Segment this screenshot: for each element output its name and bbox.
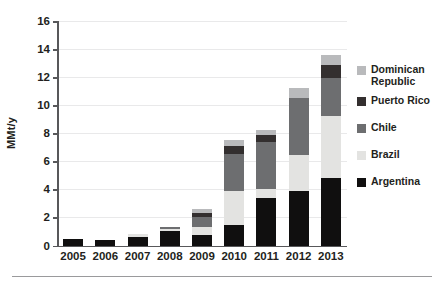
bar-segment[interactable] bbox=[224, 225, 244, 245]
legend-label: Brazil bbox=[371, 149, 400, 161]
bar-stack[interactable] bbox=[128, 234, 148, 246]
y-axis-title: MMt/y bbox=[0, 124, 46, 142]
bar-segment[interactable] bbox=[224, 191, 244, 225]
bar-stack[interactable] bbox=[160, 227, 180, 245]
y-tick-label: 4 bbox=[44, 183, 50, 195]
legend-item[interactable]: Dominican Republic bbox=[357, 64, 425, 87]
bar-stack[interactable] bbox=[289, 88, 309, 245]
bar-segment[interactable] bbox=[289, 191, 309, 245]
x-tick-label: 2010 bbox=[217, 250, 251, 262]
legend-label: Dominican Republic bbox=[371, 64, 425, 87]
x-tick-label: 2005 bbox=[56, 250, 90, 262]
bar-segment[interactable] bbox=[256, 142, 276, 190]
gridline bbox=[57, 77, 347, 78]
bar-segment[interactable] bbox=[95, 240, 115, 246]
bar-stack[interactable] bbox=[224, 140, 244, 245]
bar-segment[interactable] bbox=[63, 239, 83, 245]
x-tick-label: 2008 bbox=[153, 250, 187, 262]
bar-stack[interactable] bbox=[256, 130, 276, 246]
x-tick-label: 2006 bbox=[88, 250, 122, 262]
bar-segment[interactable] bbox=[321, 65, 341, 78]
y-tick-label: 12 bbox=[37, 71, 50, 83]
bar-segment[interactable] bbox=[224, 146, 244, 154]
legend-swatch-icon bbox=[357, 178, 366, 187]
bar-segment[interactable] bbox=[289, 155, 309, 191]
x-tick-label: 2013 bbox=[314, 250, 348, 262]
bar-segment[interactable] bbox=[128, 237, 148, 245]
x-tick-label: 2007 bbox=[121, 250, 155, 262]
legend-item[interactable]: Argentina bbox=[357, 176, 420, 188]
legend-label: Chile bbox=[371, 122, 397, 134]
bar-stack[interactable] bbox=[95, 240, 115, 246]
y-tick-label: 16 bbox=[37, 15, 50, 27]
legend-swatch-icon bbox=[357, 124, 366, 133]
legend-item[interactable]: Chile bbox=[357, 122, 397, 134]
bar-stack[interactable] bbox=[192, 209, 212, 245]
bar-segment[interactable] bbox=[289, 98, 309, 156]
gridline bbox=[57, 49, 347, 50]
bar-segment[interactable] bbox=[321, 178, 341, 245]
gridline bbox=[57, 21, 347, 22]
y-tick-label: 14 bbox=[37, 43, 50, 55]
y-tick-label: 6 bbox=[44, 155, 50, 167]
bar-segment[interactable] bbox=[256, 189, 276, 197]
legend-swatch-icon bbox=[357, 66, 366, 75]
legend-label: Argentina bbox=[371, 176, 420, 188]
y-tick-label: 10 bbox=[37, 99, 50, 111]
legend-item[interactable]: Brazil bbox=[357, 149, 400, 161]
bar-segment[interactable] bbox=[192, 235, 212, 246]
bar-segment[interactable] bbox=[192, 217, 212, 228]
y-tick-label: 8 bbox=[44, 127, 50, 139]
x-axis-line bbox=[57, 246, 347, 248]
plot-area: 0246810121416 20052006200720082009201020… bbox=[57, 21, 347, 247]
bar-segment[interactable] bbox=[224, 154, 244, 190]
y-tick-label: 2 bbox=[44, 211, 50, 223]
bar-segment[interactable] bbox=[160, 231, 180, 245]
bar-segment[interactable] bbox=[256, 198, 276, 246]
x-tick-label: 2009 bbox=[185, 250, 219, 262]
bottom-divider bbox=[12, 276, 432, 277]
legend-swatch-icon bbox=[357, 151, 366, 160]
legend-label: Puerto Rico bbox=[371, 95, 430, 107]
x-tick-label: 2011 bbox=[249, 250, 283, 262]
legend-swatch-icon bbox=[357, 97, 366, 106]
legend-item[interactable]: Puerto Rico bbox=[357, 95, 430, 107]
bar-segment[interactable] bbox=[321, 78, 341, 117]
bar-stack[interactable] bbox=[321, 55, 341, 246]
bar-segment[interactable] bbox=[321, 116, 341, 178]
bar-segment[interactable] bbox=[192, 227, 212, 235]
bar-segment[interactable] bbox=[321, 55, 341, 65]
chart-figure: MMt/y 0246810121416 20052006200720082009… bbox=[0, 0, 444, 285]
bar-stack[interactable] bbox=[63, 239, 83, 245]
y-tick-label: 0 bbox=[44, 240, 50, 252]
y-axis-line bbox=[57, 21, 59, 247]
bar-segment[interactable] bbox=[289, 88, 309, 97]
x-tick-label: 2012 bbox=[282, 250, 316, 262]
